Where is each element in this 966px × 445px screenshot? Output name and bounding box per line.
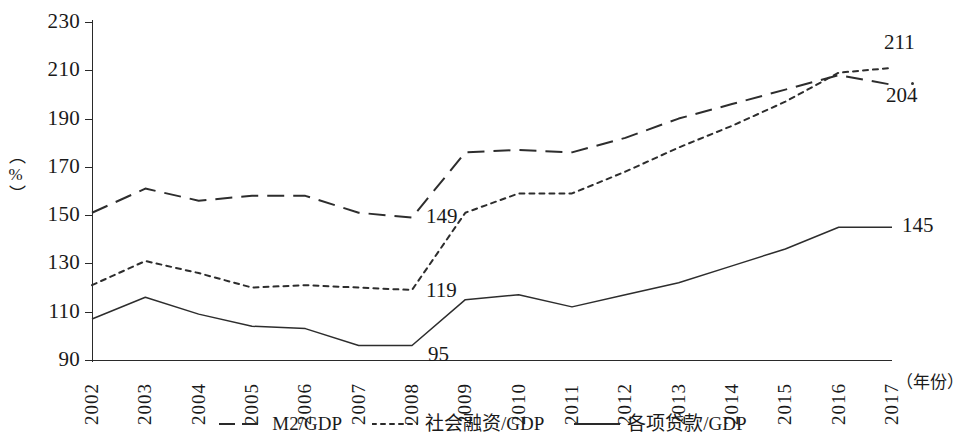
legend-item: 社会融资/GDP	[372, 414, 544, 433]
y-tick-label: 130	[16, 252, 80, 273]
y-tick-label: 150	[16, 204, 80, 225]
y-tick-label-text: 110	[16, 301, 80, 322]
y-tick-label-text: 170	[16, 156, 80, 177]
y-tick-mark	[85, 22, 92, 23]
legend-swatch-dotted	[372, 418, 418, 430]
series-line	[92, 227, 892, 345]
y-tick-label-text: 90	[16, 349, 80, 370]
y-tick-label: 230	[16, 11, 80, 32]
y-tick-label: 210	[16, 59, 80, 80]
y-tick-label: 190	[16, 108, 80, 129]
legend-swatch-dashed	[219, 418, 265, 430]
legend-item: 各项贷款/GDP	[574, 414, 746, 433]
y-tick-mark	[85, 312, 92, 313]
y-tick-mark	[85, 167, 92, 168]
data-label: 119	[426, 280, 457, 301]
series-line	[92, 75, 892, 217]
y-tick-label-text: 190	[16, 108, 80, 129]
x-axis-line	[92, 360, 892, 361]
chart-root: （%） 23021019017015013011090 149119952112…	[0, 0, 966, 445]
y-tick-label-text: 230	[16, 11, 80, 32]
y-tick-mark	[85, 119, 92, 120]
y-tick-label-text: 130	[16, 252, 80, 273]
y-tick-label: 90	[16, 349, 80, 370]
y-tick-label-text: 150	[16, 204, 80, 225]
series-lines	[92, 22, 892, 360]
data-label: 211	[884, 32, 915, 53]
data-label: 95	[428, 344, 449, 365]
y-tick-mark	[85, 263, 92, 264]
y-tick-label: 170	[16, 156, 80, 177]
y-tick-mark	[85, 360, 92, 361]
data-label: 204	[886, 85, 918, 106]
y-tick-label: 110	[16, 301, 80, 322]
plot-area	[92, 22, 892, 360]
x-axis-title: （年份）	[896, 368, 964, 393]
legend-label: 社会融资/GDP	[425, 414, 544, 433]
y-tick-mark	[85, 215, 92, 216]
series-line	[92, 68, 892, 290]
legend-label: 各项贷款/GDP	[627, 414, 746, 433]
chart-legend: M2/GDP社会融资/GDP各项贷款/GDP	[0, 414, 966, 433]
scan-speck	[911, 82, 914, 85]
legend-item: M2/GDP	[219, 414, 342, 433]
data-label: 149	[426, 206, 458, 227]
y-tick-mark	[85, 70, 92, 71]
legend-label: M2/GDP	[272, 414, 342, 433]
legend-swatch-solid	[574, 418, 620, 430]
y-tick-label-text: 210	[16, 59, 80, 80]
data-label: 145	[902, 215, 934, 236]
